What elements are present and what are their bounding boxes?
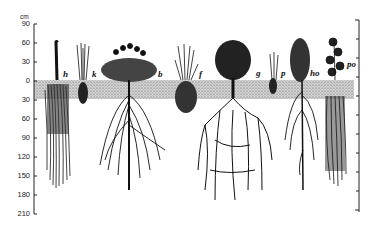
plant-p (269, 52, 278, 94)
right-depth-axis (355, 20, 359, 212)
plant-b (100, 44, 165, 191)
plant-label-b: b (158, 69, 163, 79)
plant-label-p: p (281, 68, 286, 78)
plant-label-k: k (92, 69, 97, 79)
illustration (0, 0, 378, 228)
plant-label-g: g (256, 68, 261, 78)
plant-po (325, 38, 346, 186)
plant-ho (285, 38, 318, 190)
left-depth-axis (34, 24, 37, 214)
plant-k (77, 43, 89, 104)
plant-f (175, 44, 198, 113)
plant-g (198, 40, 272, 200)
plant-label-po: po (347, 59, 356, 69)
plant-label-h: h (63, 69, 68, 79)
plant-label-ho: ho (310, 68, 320, 78)
plant-label-f: f (199, 69, 202, 79)
plant-h (45, 41, 70, 188)
